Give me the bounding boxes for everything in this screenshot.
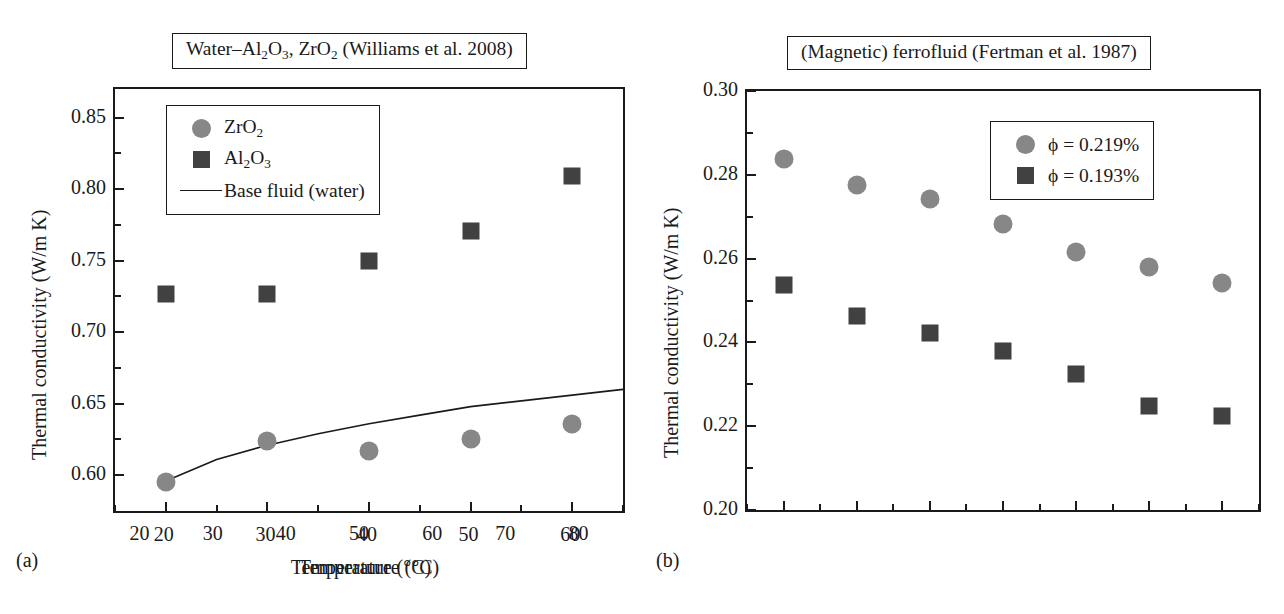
- data-point-marker: [1068, 365, 1085, 382]
- legend-label-zro2: ZrO2: [224, 116, 263, 141]
- legend-item-al2o3: Al2O3: [178, 144, 365, 175]
- y-tick-label: 0.20: [703, 497, 738, 520]
- x-tick-label: 30: [203, 522, 223, 545]
- y-tick-major: [747, 341, 756, 343]
- panel-a-title-prefix: Water–Al: [186, 38, 261, 59]
- data-point-marker: [994, 214, 1013, 233]
- y-tick-minor: [115, 295, 121, 297]
- panel-a-title-mid-1: O: [268, 38, 282, 59]
- x-tick-label: 50: [349, 522, 369, 545]
- y-tick-label: 0.30: [703, 78, 738, 101]
- data-point-marker: [848, 308, 865, 325]
- y-tick-label: 0.28: [703, 161, 738, 184]
- data-point-marker: [1213, 274, 1232, 293]
- panel-a-title-sub-2: 3: [282, 47, 289, 62]
- panel-b-legend: ϕ = 0.219% ϕ = 0.193%: [990, 121, 1154, 200]
- y-tick-minor: [747, 132, 753, 134]
- y-tick-label: 0.60: [71, 462, 106, 485]
- data-point-marker: [1067, 242, 1086, 261]
- x-tick-major: [1075, 501, 1077, 510]
- y-tick-label: 0.22: [703, 413, 738, 436]
- x-tick-minor: [520, 505, 522, 511]
- panel-a-title-suffix: (Williams et al. 2008): [338, 38, 513, 59]
- legend-item-phi-0219: ϕ = 0.219%: [1002, 129, 1139, 160]
- y-tick-label: 0.24: [703, 329, 738, 352]
- x-tick-minor: [746, 504, 748, 510]
- panel-a-plot-frame: ZrO2 Al2O3 Base fluid (water): [113, 87, 625, 513]
- data-point-marker: [920, 190, 939, 209]
- square-marker-icon: [1002, 167, 1048, 184]
- y-tick-label: 0.65: [71, 390, 106, 413]
- y-tick-label: 0.85: [71, 104, 106, 127]
- y-tick-label: 0.70: [71, 319, 106, 342]
- data-point-marker: [995, 343, 1012, 360]
- data-point-marker: [258, 431, 277, 450]
- y-tick-label: 0.80: [71, 176, 106, 199]
- x-tick-major: [856, 501, 858, 510]
- y-tick-major: [747, 509, 756, 511]
- x-tick-major: [1002, 501, 1004, 510]
- circle-marker-icon: [1002, 135, 1048, 154]
- y-tick-minor: [747, 383, 753, 385]
- line-marker-icon: [178, 190, 224, 192]
- x-tick-minor: [216, 505, 218, 511]
- x-tick-minor: [1185, 504, 1187, 510]
- y-tick-major: [747, 425, 756, 427]
- x-tick-minor: [1258, 504, 1260, 510]
- x-tick-minor: [622, 505, 624, 511]
- x-tick-label: 60: [422, 522, 442, 545]
- x-tick-label: 40: [276, 522, 296, 545]
- panel-b-x-tick-labels: 20304050607080: [103, 522, 619, 552]
- panel-a-legend: ZrO2 Al2O3 Base fluid (water): [166, 105, 380, 215]
- x-tick-minor: [892, 504, 894, 510]
- data-point-marker: [361, 252, 378, 269]
- panel-a-letter: (a): [16, 549, 38, 572]
- x-tick-major: [266, 502, 268, 511]
- legend-item-zro2: ZrO2: [178, 113, 365, 144]
- legend-label-phi-0219: ϕ = 0.219%: [1048, 134, 1139, 156]
- x-tick-minor: [317, 505, 319, 511]
- data-point-marker: [156, 473, 175, 492]
- data-point-marker: [157, 285, 174, 302]
- data-point-marker: [462, 222, 479, 239]
- panel-b-y-tick-labels: 0.200.220.240.260.280.30: [676, 89, 738, 512]
- circle-marker-icon: [178, 119, 224, 138]
- legend-label-base-fluid: Base fluid (water): [224, 180, 365, 202]
- caption-sliver: [8, 601, 668, 611]
- x-tick-major: [929, 501, 931, 510]
- x-tick-major: [368, 502, 370, 511]
- x-tick-minor: [965, 504, 967, 510]
- legend-label-al2o3: Al2O3: [224, 147, 271, 172]
- y-tick-major: [115, 117, 124, 119]
- data-point-marker: [921, 325, 938, 342]
- y-tick-major: [115, 188, 124, 190]
- legend-item-base-fluid: Base fluid (water): [178, 175, 365, 206]
- x-tick-label: 80: [568, 522, 588, 545]
- y-tick-minor: [115, 224, 121, 226]
- data-point-marker: [1214, 407, 1231, 424]
- y-tick-major: [747, 258, 756, 260]
- panel-a-y-tick-labels: 0.600.650.700.750.800.85: [44, 87, 106, 513]
- data-point-marker: [461, 430, 480, 449]
- y-tick-minor: [747, 216, 753, 218]
- x-tick-major: [470, 502, 472, 511]
- data-point-marker: [564, 168, 581, 185]
- data-point-marker: [563, 414, 582, 433]
- square-marker-icon: [178, 151, 224, 168]
- y-tick-major: [115, 474, 124, 476]
- panel-b-plot-frame: ϕ = 0.219% ϕ = 0.193%: [745, 89, 1261, 512]
- x-tick-label: 70: [495, 522, 515, 545]
- legend-label-phi-0193: ϕ = 0.193%: [1048, 165, 1139, 187]
- y-tick-major: [747, 174, 756, 176]
- panel-a-title-sub-1: 2: [261, 47, 268, 62]
- data-point-marker: [775, 276, 792, 293]
- y-tick-minor: [115, 438, 121, 440]
- panel-b-x-axis-title: Temperature (°C): [103, 556, 619, 579]
- panel-a-title: Water–Al2O3, ZrO2 (Williams et al. 2008): [172, 33, 527, 69]
- data-point-marker: [360, 441, 379, 460]
- y-tick-minor: [747, 300, 753, 302]
- figure-container: Water–Al2O3, ZrO2 (Williams et al. 2008)…: [0, 0, 1284, 614]
- x-tick-major: [1148, 501, 1150, 510]
- x-tick-major: [1221, 501, 1223, 510]
- x-tick-minor: [114, 505, 116, 511]
